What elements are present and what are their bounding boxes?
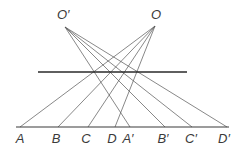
ray-o-prime-to-point-7 xyxy=(65,27,227,127)
ray-o-to-point-1 xyxy=(58,26,155,127)
projection-rays xyxy=(20,26,227,127)
ray-o-prime-to-point-6 xyxy=(65,27,192,127)
point-label: A′ xyxy=(121,131,134,146)
point-labels: ABCDA′B′C′D′ xyxy=(15,131,231,146)
point-label: D′ xyxy=(218,131,230,146)
ray-o-prime-to-point-5 xyxy=(65,27,165,127)
point-label: B′ xyxy=(157,131,169,146)
center-labels: O′O xyxy=(57,7,161,22)
point-label: B xyxy=(52,131,61,146)
point-label: C xyxy=(81,131,91,146)
center-label: O xyxy=(151,7,161,22)
point-label: D xyxy=(107,131,116,146)
ray-o-prime-to-point-4 xyxy=(65,27,130,127)
point-label: A xyxy=(15,131,25,146)
projection-diagram: O′O ABCDA′B′C′D′ xyxy=(0,0,245,149)
center-label: O′ xyxy=(57,7,70,22)
point-label: C′ xyxy=(185,131,197,146)
diagram-canvas: O′O ABCDA′B′C′D′ xyxy=(0,0,245,149)
